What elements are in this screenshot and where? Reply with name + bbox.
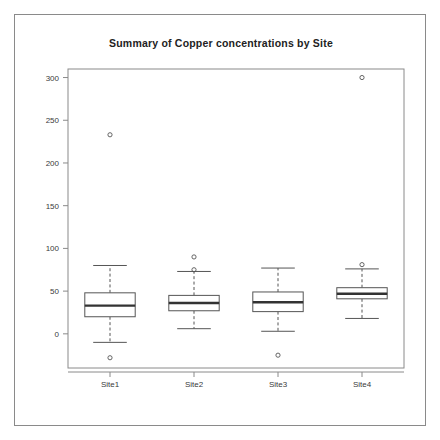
y-tick-label: 300 (46, 74, 60, 83)
outlier-point (108, 356, 112, 360)
plot-frame (68, 69, 404, 368)
y-tick-label: 100 (46, 244, 60, 253)
outlier-point (108, 133, 112, 137)
x-axis: Site1Site2Site3Site4 (68, 372, 404, 389)
boxplot-canvas: 050100150200250300 Site1Site2Site3Site4 (0, 0, 440, 440)
y-tick-label: 250 (46, 116, 60, 125)
x-tick-label-site2: Site2 (185, 380, 204, 389)
screenshot-root: Summary of Copper concentrations by Site… (0, 0, 440, 440)
boxplot-site1 (85, 133, 135, 360)
x-tick-label-site3: Site3 (269, 380, 288, 389)
boxplot-site2 (169, 255, 219, 329)
outlier-point (276, 353, 280, 357)
y-tick-label: 0 (55, 330, 60, 339)
y-axis: 050100150200250300 (46, 74, 68, 339)
y-tick-label: 50 (50, 287, 59, 296)
y-tick-label: 200 (46, 159, 60, 168)
outlier-point (360, 75, 364, 79)
plot-frame-rect (68, 69, 404, 368)
x-tick-label-site1: Site1 (101, 380, 120, 389)
boxplot-site3 (253, 268, 303, 357)
outlier-point (360, 263, 364, 267)
boxplot-series (85, 75, 387, 359)
outlier-point (192, 255, 196, 259)
boxplot-site4 (337, 75, 387, 318)
x-tick-label-site4: Site4 (353, 380, 372, 389)
y-tick-label: 150 (46, 202, 60, 211)
